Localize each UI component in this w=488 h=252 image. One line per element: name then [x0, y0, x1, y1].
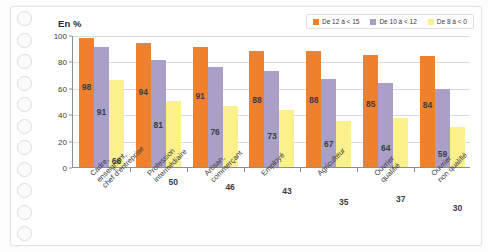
legend-item[interactable]: De 12 à < 15: [313, 18, 359, 25]
legend-swatch-icon: [370, 19, 376, 25]
bar-value-label: 88: [252, 95, 261, 105]
bar-value-label: 91: [97, 107, 106, 117]
ring-hole: [17, 54, 32, 69]
bar[interactable]: 91: [193, 47, 208, 167]
bar-value-label: 81: [154, 120, 163, 130]
bar[interactable]: 98: [79, 38, 94, 167]
legend-label: De 10 à < 12: [379, 18, 416, 25]
bar[interactable]: 85: [363, 55, 378, 167]
y-axis-tick-label: 20: [58, 137, 67, 146]
chart-title: En %: [58, 18, 82, 29]
bar[interactable]: 88: [249, 51, 264, 167]
bar-group: 887343: [244, 36, 301, 167]
bar-value-label: 88: [309, 95, 318, 105]
bar-value-label: 94: [139, 87, 148, 97]
ring-hole: [17, 33, 32, 48]
chart-legend: De 12 à < 15De 10 à < 12De 8 à < 0: [306, 14, 474, 29]
y-axis-tick-label: 0: [63, 164, 67, 173]
y-axis-tick-label: 40: [58, 111, 67, 120]
bar-value-label: 64: [381, 143, 390, 153]
bar-chart: En % De 12 à < 15De 10 à < 12De 8 à < 0 …: [46, 10, 478, 242]
bar[interactable]: 84: [420, 56, 435, 167]
y-axis-tick-label: 100: [54, 32, 67, 41]
ring-hole: [17, 205, 32, 220]
y-axis-tick-label: 80: [58, 58, 67, 67]
legend-label: De 8 à < 0: [437, 18, 467, 25]
ring-hole: [17, 162, 32, 177]
ring-hole: [17, 140, 32, 155]
bar-value-label: 84: [423, 100, 432, 110]
bar[interactable]: 76: [208, 67, 223, 167]
ring-hole: [17, 226, 32, 241]
bar-value-label: 91: [195, 91, 204, 101]
legend-swatch-icon: [428, 19, 434, 25]
bar-value-label: 73: [267, 131, 276, 141]
bar-value-label: 98: [82, 82, 91, 92]
bar-group: 886735: [300, 36, 357, 167]
legend-swatch-icon: [313, 19, 319, 25]
ring-hole: [17, 11, 32, 26]
legend-label: De 12 à < 15: [322, 18, 359, 25]
spiral-binding: [14, 8, 42, 246]
ring-hole: [17, 76, 32, 91]
x-axis-category-labels: Cadre, enseignant, chef d'entrepriseProf…: [72, 170, 470, 242]
legend-item[interactable]: De 10 à < 12: [370, 18, 416, 25]
bar-value-label: 76: [210, 127, 219, 137]
y-axis-tick-label: 60: [58, 84, 67, 93]
bar[interactable]: 81: [151, 60, 166, 167]
bar[interactable]: 91: [94, 47, 109, 167]
bar-group: 856437: [357, 36, 414, 167]
y-axis: 020406080100: [46, 36, 72, 169]
bar[interactable]: 88: [306, 51, 321, 167]
bar-value-label: 67: [324, 139, 333, 149]
bar-group: 845930: [414, 36, 471, 167]
bar-value-label: 85: [366, 99, 375, 109]
notebook-page: En % De 12 à < 15De 10 à < 12De 8 à < 0 …: [0, 0, 488, 252]
legend-item[interactable]: De 8 à < 0: [428, 18, 467, 25]
ring-hole: [17, 183, 32, 198]
ring-hole: [17, 97, 32, 112]
ring-hole: [17, 119, 32, 134]
